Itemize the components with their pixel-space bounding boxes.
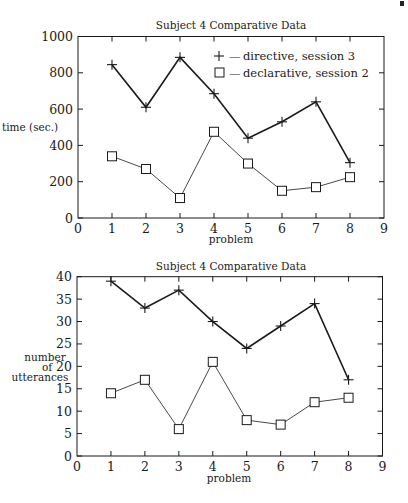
y-tick-label: 1000: [41, 29, 73, 44]
y-tick-label: 200: [49, 174, 73, 189]
square-marker-icon: [244, 159, 253, 168]
legend: — directive, session 3 — declarative, se…: [214, 49, 369, 80]
square-marker-icon: [176, 194, 185, 203]
y-tick-label: 40: [56, 269, 72, 284]
scan-artifact: [400, 1, 404, 6]
legend-label-directive: directive, session 3: [243, 49, 355, 63]
data-series: [106, 276, 354, 433]
x-tick-label: 9: [380, 221, 388, 236]
plus-marker-icon: [344, 375, 354, 385]
y-axis-label: time (sec.): [2, 121, 58, 133]
square-marker-icon: [278, 186, 287, 195]
y-tick-label: 25: [56, 336, 72, 351]
chart-title: Subject 4 Comparative Data: [156, 260, 306, 272]
y-tick-label: 400: [49, 138, 73, 153]
square-marker-icon: [344, 393, 353, 402]
x-axis-label: problem: [207, 472, 251, 484]
square-marker-icon: [346, 173, 355, 182]
square-marker-icon: [106, 389, 115, 398]
y-tick-label: 30: [56, 314, 72, 329]
square-marker-icon: [142, 164, 151, 173]
plot-frame: [78, 37, 384, 219]
legend-label-declarative: declarative, session 2: [243, 66, 369, 80]
y-tick-label: 800: [49, 65, 73, 80]
x-tick-label: 7: [312, 221, 320, 236]
x-tick-label: 0: [73, 459, 81, 474]
x-tick-label: 3: [175, 459, 183, 474]
y-tick-label: 35: [56, 292, 72, 307]
square-marker-icon: [174, 425, 183, 434]
chart-canvas: Subject 4 Comparative Data 0200400600800…: [0, 0, 408, 503]
y-axis-ticks: 0510152025303540: [56, 269, 382, 463]
chart-time: Subject 4 Comparative Data 0200400600800…: [2, 19, 388, 245]
x-tick-label: 6: [278, 221, 286, 236]
x-tick-label: 2: [142, 221, 150, 236]
y-tick-label: 0: [64, 449, 72, 464]
legend-dash: —: [229, 66, 241, 80]
square-marker-icon: [310, 398, 319, 407]
plus-marker-icon: [277, 117, 287, 127]
legend-item-directive: — directive, session 3: [214, 49, 355, 63]
x-tick-label: 8: [346, 221, 354, 236]
y-axis-label-line3: utterances: [12, 371, 69, 383]
legend-dash: —: [229, 49, 241, 63]
y-tick-label: 15: [56, 381, 72, 396]
line-declarative: [111, 362, 349, 429]
square-marker-icon: [242, 416, 251, 425]
square-marker-icon: [208, 357, 217, 366]
x-tick-label: 7: [311, 459, 319, 474]
chart-utterances: Subject 4 Comparative Data 0510152025303…: [12, 260, 387, 484]
plus-marker-icon: [276, 321, 286, 331]
plot-frame: [77, 277, 383, 456]
square-marker-icon: [140, 375, 149, 384]
x-tick-label: 2: [141, 459, 149, 474]
y-tick-label: 0: [65, 211, 73, 226]
x-axis-label: problem: [209, 233, 253, 245]
x-tick-label: 0: [74, 221, 82, 236]
y-tick-label: 10: [56, 404, 72, 419]
square-marker-icon: [312, 183, 321, 192]
x-tick-label: 8: [345, 459, 353, 474]
plus-marker-icon: [310, 299, 320, 309]
x-tick-label: 9: [379, 459, 387, 474]
chart-title: Subject 4 Comparative Data: [156, 19, 306, 31]
square-marker-icon: [210, 127, 219, 136]
x-tick-label: 1: [108, 221, 116, 236]
x-tick-label: 3: [176, 221, 184, 236]
x-tick-label: 6: [277, 459, 285, 474]
square-marker-icon: [108, 152, 117, 161]
plus-marker-icon: [345, 158, 355, 168]
square-marker-icon: [215, 68, 224, 77]
plus-marker-icon: [214, 51, 224, 61]
y-tick-label: 5: [64, 426, 72, 441]
square-marker-icon: [276, 420, 285, 429]
y-tick-label: 600: [49, 102, 73, 117]
line-directive: [111, 281, 349, 380]
x-tick-label: 1: [107, 459, 115, 474]
legend-item-declarative: — declarative, session 2: [215, 66, 369, 80]
plus-marker-icon: [311, 97, 321, 107]
x-axis-ticks: 0123456789: [73, 277, 387, 474]
